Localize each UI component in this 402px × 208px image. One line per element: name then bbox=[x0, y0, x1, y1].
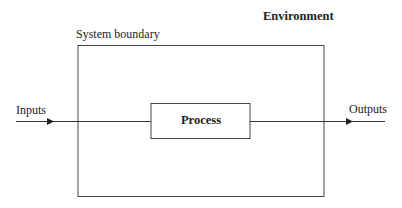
inputs-label: Inputs bbox=[16, 104, 46, 116]
system-boundary-label: System boundary bbox=[76, 28, 160, 40]
process-label: Process bbox=[151, 114, 251, 127]
output-arrow-icon bbox=[346, 118, 353, 125]
outputs-label: Outputs bbox=[349, 103, 387, 115]
diagram-canvas bbox=[0, 0, 402, 208]
input-arrow-icon bbox=[47, 118, 54, 125]
environment-label: Environment bbox=[263, 10, 334, 23]
